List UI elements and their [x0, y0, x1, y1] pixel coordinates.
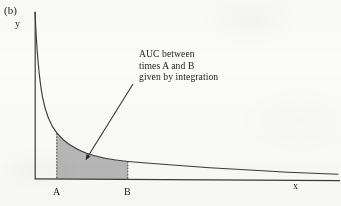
decay-curve	[35, 12, 338, 174]
figure-panel: (b) y x A B AUC between times A and B gi…	[0, 0, 341, 206]
auc-annotation: AUC between times A and B given by integ…	[139, 48, 218, 83]
y-axis-label: y	[15, 19, 20, 29]
auc-plot	[0, 0, 341, 206]
annotation-line-2: times A and B	[139, 60, 218, 72]
panel-label: (b)	[4, 5, 17, 16]
annotation-arrow	[86, 84, 133, 160]
annotation-line-3: given by integration	[139, 71, 218, 83]
tick-label-b: B	[124, 187, 131, 197]
auc-shaded-region	[35, 12, 338, 179]
tick-label-a: A	[53, 187, 60, 197]
annotation-line-1: AUC between	[139, 48, 218, 60]
x-axis-label: x	[293, 181, 298, 191]
